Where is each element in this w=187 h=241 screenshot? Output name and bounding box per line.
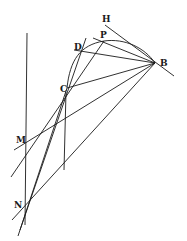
line-DB [74, 50, 155, 63]
geometry-diagram: H P D B C M N [0, 0, 187, 241]
label-C: C [60, 84, 67, 94]
vertical-line [25, 33, 27, 225]
line-HB [105, 25, 174, 76]
label-D: D [74, 42, 82, 52]
label-H: H [102, 14, 111, 24]
line-PM [11, 41, 104, 177]
label-M: M [16, 135, 26, 145]
label-P: P [100, 30, 107, 40]
line-BN [12, 63, 155, 220]
line-C-vertical [64, 92, 66, 170]
label-N: N [14, 200, 22, 210]
label-B: B [160, 58, 168, 68]
line-BM [14, 63, 155, 150]
